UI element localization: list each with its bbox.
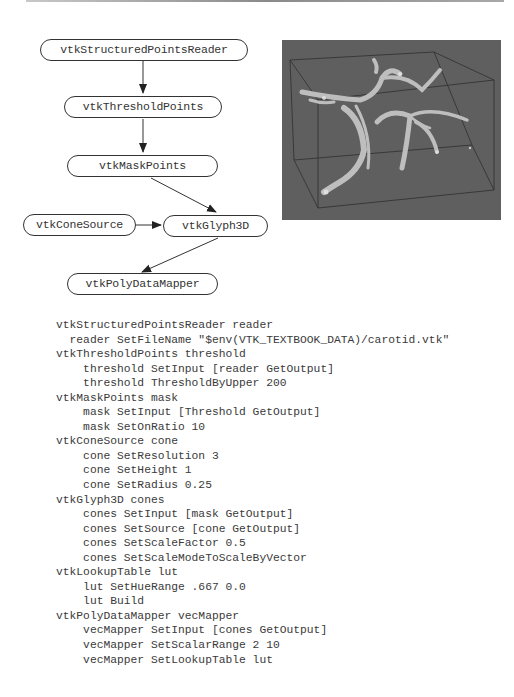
code-line: cones SetInput [mask GetOutput] xyxy=(56,507,449,522)
code-line: cone SetResolution 3 xyxy=(56,449,449,464)
code-line: vecMapper SetInput [cones GetOutput] xyxy=(56,623,449,638)
carotid-rendering-image xyxy=(282,40,501,220)
code-line: mask SetOnRatio 10 xyxy=(56,420,449,435)
code-line: threshold ThresholdByUpper 200 xyxy=(56,376,449,391)
code-line: cones SetSource [cone GetOutput] xyxy=(56,522,449,537)
code-line: vtkLookupTable lut xyxy=(56,565,449,580)
code-line: vtkMaskPoints mask xyxy=(56,391,449,406)
node-mask-points: vtkMaskPoints xyxy=(67,155,218,177)
node-structured-points-reader: vtkStructuredPointsReader xyxy=(40,39,248,61)
code-line: threshold SetInput [reader GetOutput] xyxy=(56,362,449,377)
code-line: lut Build xyxy=(56,594,449,609)
node-poly-data-mapper: vtkPolyDataMapper xyxy=(67,273,218,295)
code-line: vtkConeSource cone xyxy=(56,434,449,449)
code-line: reader SetFileName "$env(VTK_TEXTBOOK_DA… xyxy=(56,333,449,348)
code-line: mask SetInput [Threshold GetOutput] xyxy=(56,405,449,420)
arrow-glyph-mapper xyxy=(142,238,218,272)
code-line: lut SetHueRange .667 0.0 xyxy=(56,580,449,595)
code-line: vtkGlyph3D cones xyxy=(56,493,449,508)
code-line: cone SetHeight 1 xyxy=(56,463,449,478)
node-glyph3d: vtkGlyph3D xyxy=(163,215,268,237)
code-line: cone SetRadius 0.25 xyxy=(56,478,449,493)
tcl-code-listing: vtkStructuredPointsReader reader reader … xyxy=(56,318,449,667)
code-line: vecMapper SetScalarRange 2 10 xyxy=(56,638,449,653)
code-line: vtkThresholdPoints threshold xyxy=(56,347,449,362)
code-line: vtkPolyDataMapper vecMapper xyxy=(56,609,449,624)
carotid-artery-illustration xyxy=(282,40,501,220)
node-threshold-points: vtkThresholdPoints xyxy=(64,96,222,118)
pipeline-diagram: vtkStructuredPointsReader vtkThresholdPo… xyxy=(0,0,300,300)
node-cone-source: vtkConeSource xyxy=(23,214,136,236)
arrow-mask-glyph xyxy=(151,178,216,212)
code-line: vtkStructuredPointsReader reader xyxy=(56,318,449,333)
code-line: vecMapper SetLookupTable lut xyxy=(56,653,449,668)
code-line: cones SetScaleFactor 0.5 xyxy=(56,536,449,551)
code-line: cones SetScaleModeToScaleByVector xyxy=(56,551,449,566)
